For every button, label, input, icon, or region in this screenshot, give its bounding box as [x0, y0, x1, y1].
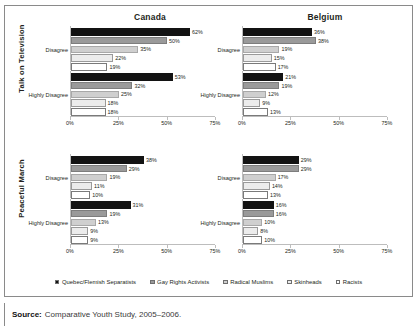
legend-item-skinheads[interactable]: Skinheads	[287, 279, 322, 285]
bar-stack: Highly Disagree16%16%10%8%10%	[243, 201, 387, 245]
plot-area: Disagree36%38%19%15%17%	[242, 26, 387, 70]
bar-quebec-flemish-separatists	[71, 156, 144, 164]
axis-tick-label: 75%	[382, 248, 393, 254]
group-label-highly-disagree: Highly Disagree	[29, 92, 68, 98]
legend-label: Skinheads	[294, 279, 322, 285]
bar-value-label: 11%	[92, 183, 104, 189]
bar-quebec-flemish-separatists	[71, 73, 173, 81]
legend-swatch-icon	[287, 280, 292, 285]
bar-value-label: 9%	[260, 100, 270, 106]
axis-tick-label: 0%	[66, 248, 74, 254]
column-titles: Canada Belgium	[5, 12, 412, 26]
bar-value-label: 38%	[316, 38, 329, 44]
bar-value-label: 17%	[276, 64, 289, 70]
bar-group-belgium-talk-on-television-highly-disagree: Highly Disagree21%19%12%9%13%	[242, 71, 387, 115]
chart-frame: Canada Belgium Talk on Television Peacef…	[4, 5, 413, 297]
bar-row: 13%	[243, 191, 387, 199]
bar-row: 18%	[71, 108, 215, 116]
bar-row: 17%	[243, 174, 387, 182]
bar-row: 10%	[243, 236, 387, 244]
bar-row: 53%	[71, 73, 215, 81]
group-label-disagree: Disagree	[46, 47, 68, 53]
bar-gay-rights-activists	[71, 82, 132, 90]
bar-row: 15%	[243, 54, 387, 62]
bar-gay-rights-activists	[243, 37, 316, 45]
bar-value-label: 32%	[132, 83, 145, 89]
bar-skinheads	[243, 182, 270, 190]
bar-row: 19%	[243, 82, 387, 90]
plot-area: Disagree29%29%17%14%13%	[242, 154, 387, 198]
axis-tick-label: 0%	[66, 120, 74, 126]
bar-gay-rights-activists	[243, 210, 274, 218]
bar-quebec-flemish-separatists	[71, 201, 131, 209]
bar-group-belgium-peaceful-march-disagree: Disagree29%29%17%14%13%	[242, 154, 387, 198]
axis-tick-label: 0%	[238, 248, 246, 254]
legend-swatch-icon	[336, 280, 341, 285]
bar-value-label: 53%	[173, 74, 186, 80]
bar-row: 29%	[243, 165, 387, 173]
bar-gay-rights-activists	[71, 165, 127, 173]
axis-tick-label: 50%	[161, 248, 172, 254]
bar-quebec-flemish-separatists	[243, 73, 283, 81]
bar-stack: Highly Disagree53%32%25%18%18%	[71, 73, 215, 117]
bar-value-label: 9%	[88, 237, 98, 243]
bar-row: 13%	[243, 108, 387, 116]
axis-tick-label: 50%	[333, 120, 344, 126]
bar-row: 21%	[243, 73, 387, 81]
legend-item-gay-rights-activists[interactable]: Gay Rights Activists	[150, 279, 209, 285]
bar-racists	[71, 108, 106, 116]
bar-row: 8%	[243, 227, 387, 235]
legend-item-racists[interactable]: Racists	[336, 279, 362, 285]
bar-value-label: 17%	[276, 174, 289, 180]
bar-row: 29%	[71, 165, 215, 173]
bar-stack: Disagree36%38%19%15%17%	[243, 28, 387, 72]
plot-area: Highly Disagree31%19%13%9%9%	[70, 199, 215, 243]
group-label-disagree: Disagree	[46, 175, 68, 181]
bar-stack: Highly Disagree31%19%13%9%9%	[71, 201, 215, 245]
axis-tick-label: 25%	[113, 248, 124, 254]
bar-radical-muslims	[243, 91, 266, 99]
axis-tick-label: 25%	[113, 120, 124, 126]
bar-value-label: 62%	[190, 29, 203, 35]
bar-value-label: 14%	[270, 183, 283, 189]
bar-row: 19%	[71, 210, 215, 218]
group-label-disagree: Disagree	[218, 47, 240, 53]
bar-value-label: 29%	[299, 157, 312, 163]
x-axis-canada-talk-on-television: 0%25%50%75%	[70, 116, 215, 129]
legend-swatch-icon	[150, 280, 155, 285]
bar-skinheads	[71, 99, 106, 107]
bar-row: 13%	[71, 219, 215, 227]
bar-row: 10%	[243, 219, 387, 227]
bar-skinheads	[243, 54, 272, 62]
bar-value-label: 38%	[144, 157, 157, 163]
group-label-highly-disagree: Highly Disagree	[201, 220, 240, 226]
bar-value-label: 18%	[106, 109, 119, 115]
bar-value-label: 13%	[268, 109, 281, 115]
bar-gay-rights-activists	[71, 37, 167, 45]
bar-radical-muslims	[243, 174, 276, 182]
axis-tick-label: 50%	[333, 248, 344, 254]
bar-skinheads	[71, 182, 92, 190]
bar-racists	[243, 108, 268, 116]
bar-value-label: 13%	[268, 192, 281, 198]
bar-value-label: 16%	[274, 202, 287, 208]
bar-value-label: 21%	[283, 74, 296, 80]
plot-area: Highly Disagree16%16%10%8%10%	[242, 199, 387, 243]
bar-value-label: 9%	[88, 228, 98, 234]
bar-value-label: 36%	[312, 29, 325, 35]
bar-quebec-flemish-separatists	[243, 28, 312, 36]
bar-value-label: 22%	[113, 55, 126, 61]
axis-tick-label: 75%	[382, 120, 393, 126]
source-text: Comparative Youth Study, 2005–2006.	[45, 310, 181, 319]
legend-item-radical-muslims[interactable]: Radical Muslims	[223, 279, 273, 285]
bar-value-label: 25%	[119, 91, 132, 97]
bar-radical-muslims	[71, 91, 119, 99]
axis-tick-label: 75%	[210, 248, 221, 254]
plot-area: Highly Disagree53%32%25%18%18%	[70, 71, 215, 115]
legend-item-quebec-flemish-separatists[interactable]: Quebec/Flemish Separatists	[55, 279, 136, 285]
legend-swatch-icon	[223, 280, 228, 285]
axis-tick-label: 0%	[238, 120, 246, 126]
bar-value-label: 31%	[131, 202, 144, 208]
group-label-highly-disagree: Highly Disagree	[29, 220, 68, 226]
bar-row: 9%	[71, 227, 215, 235]
